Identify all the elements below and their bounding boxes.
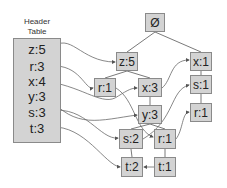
- header-row-y: y:3: [14, 90, 60, 104]
- tree-node-s2: s:2: [119, 129, 143, 149]
- tree-node-root: Ø: [145, 13, 165, 32]
- tree-node-x3: x:3: [138, 78, 162, 97]
- tree-node-t1: t:1: [154, 157, 176, 177]
- tree-node-y3: y:3: [138, 105, 162, 124]
- header-row-t: t:3: [14, 122, 60, 136]
- header-row-s: s:3: [14, 106, 60, 120]
- header-title-line1: Header: [13, 17, 61, 27]
- tree-node-r1-middle: r:1: [154, 129, 176, 149]
- tree-node-t2: t:2: [121, 157, 143, 177]
- tree-node-x1: x:1: [190, 52, 212, 71]
- tree-node-r1-right: r:1: [190, 103, 212, 122]
- header-row-x: x:4: [14, 75, 60, 89]
- header-row-z: z:5: [14, 43, 60, 57]
- header-table: z:5 r:3 x:4 y:3 s:3 t:3: [13, 38, 61, 143]
- header-table-title: Header Table: [13, 17, 61, 37]
- tree-node-z5: z:5: [116, 52, 138, 71]
- header-title-line2: Table: [13, 27, 61, 37]
- fp-tree-diagram: Header Table z:5 r:3 x:4 y:3 s:3 t:3 Ø z…: [0, 0, 227, 188]
- tree-node-s1: s:1: [190, 75, 212, 94]
- tree-node-r1-left: r:1: [94, 78, 116, 97]
- header-row-r: r:3: [14, 60, 60, 74]
